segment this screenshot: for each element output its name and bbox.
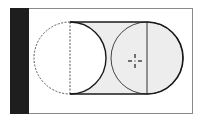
diagram-canvas [0,0,201,119]
side-bar [10,8,29,114]
